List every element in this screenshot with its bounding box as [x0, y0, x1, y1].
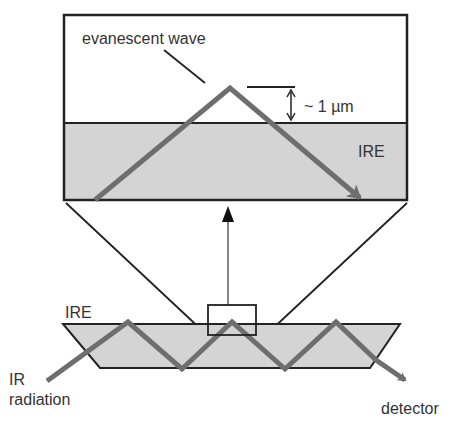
arrow-up-icon	[222, 206, 234, 305]
magnified-crystal-region	[64, 123, 407, 200]
atr-diagram: evanescent wave ~ 1 µm IRE IRE IR radiat…	[0, 0, 467, 431]
ir-label: IR	[9, 371, 25, 388]
detector-label: detector	[381, 400, 439, 417]
evanescent-wave-label: evanescent wave	[82, 30, 206, 47]
radiation-label: radiation	[9, 391, 70, 408]
depth-label: ~ 1 µm	[304, 98, 354, 115]
magnified-view: evanescent wave ~ 1 µm IRE	[64, 15, 407, 200]
ire-top-label: IRE	[358, 143, 385, 160]
projection-line-right	[268, 203, 407, 333]
ire-crystal	[47, 305, 405, 381]
ire-bottom-label: IRE	[65, 304, 92, 321]
